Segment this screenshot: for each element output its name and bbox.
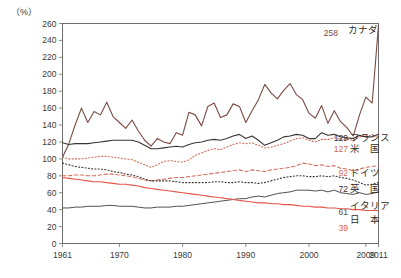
x-tick-label: 1970 <box>110 250 129 260</box>
x-tick-label: 2011 <box>369 250 388 260</box>
x-tick-label: 1961 <box>53 250 72 260</box>
series-line-canada <box>63 25 379 157</box>
end-value-united-kingdom: 72 <box>339 184 349 194</box>
end-value-france: 129 <box>334 133 348 143</box>
y-axis-unit-label: （%） <box>11 7 37 17</box>
y-tick-label: 200 <box>42 69 56 79</box>
y-tick-label: 160 <box>42 103 56 113</box>
series-label-canada: カナダ <box>348 24 378 35</box>
series-label-united-kingdom: 英 国 <box>350 183 380 194</box>
line-chart: （%） 020406080100120140160180200220240260… <box>0 0 401 278</box>
series-label-france: フランス <box>350 132 390 143</box>
end-value-united-states: 127 <box>334 144 348 154</box>
series-lines <box>63 25 379 210</box>
y-tick-label: 240 <box>42 35 56 45</box>
end-value-japan: 39 <box>339 223 349 233</box>
y-tick-label: 180 <box>42 86 56 96</box>
x-tick-label: 1990 <box>236 250 255 260</box>
series-label-italy: イタリア <box>350 200 390 211</box>
y-tick-label: 100 <box>42 154 56 164</box>
x-axis-ticks: 1961197019801990200020092011 <box>53 244 388 260</box>
chart-container: （%） 020406080100120140160180200220240260… <box>0 0 401 278</box>
y-axis-unit-group: （%） <box>11 7 37 17</box>
end-value-germany: 92 <box>339 168 349 178</box>
end-value-canada: 258 <box>324 28 338 38</box>
x-tick-label: 1980 <box>173 250 192 260</box>
series-line-france <box>63 133 379 149</box>
y-tick-label: 260 <box>42 19 56 29</box>
series-line-italy <box>63 190 379 208</box>
series-label-japan: 日 本 <box>350 214 380 225</box>
y-axis-ticks: 020406080100120140160180200220240260 <box>42 19 62 249</box>
y-tick-label: 220 <box>42 52 56 62</box>
x-tick-label: 2000 <box>300 250 319 260</box>
y-tick-label: 80 <box>47 171 57 181</box>
plot-frame <box>63 24 379 244</box>
y-tick-label: 120 <box>42 137 56 147</box>
series-label-united-states: 米 国 <box>350 143 380 154</box>
series-end-labels: 258カナダ129フランス127米 国92ドイツ72英 国61イタリア39日 本 <box>324 24 390 233</box>
y-tick-label: 60 <box>47 188 57 198</box>
y-tick-label: 0 <box>52 239 57 249</box>
y-tick-label: 140 <box>42 120 56 130</box>
y-tick-label: 20 <box>47 222 57 232</box>
series-label-germany: ドイツ <box>350 167 380 178</box>
series-line-germany <box>63 163 379 181</box>
end-value-italy: 61 <box>339 207 349 217</box>
y-tick-label: 40 <box>47 205 57 215</box>
